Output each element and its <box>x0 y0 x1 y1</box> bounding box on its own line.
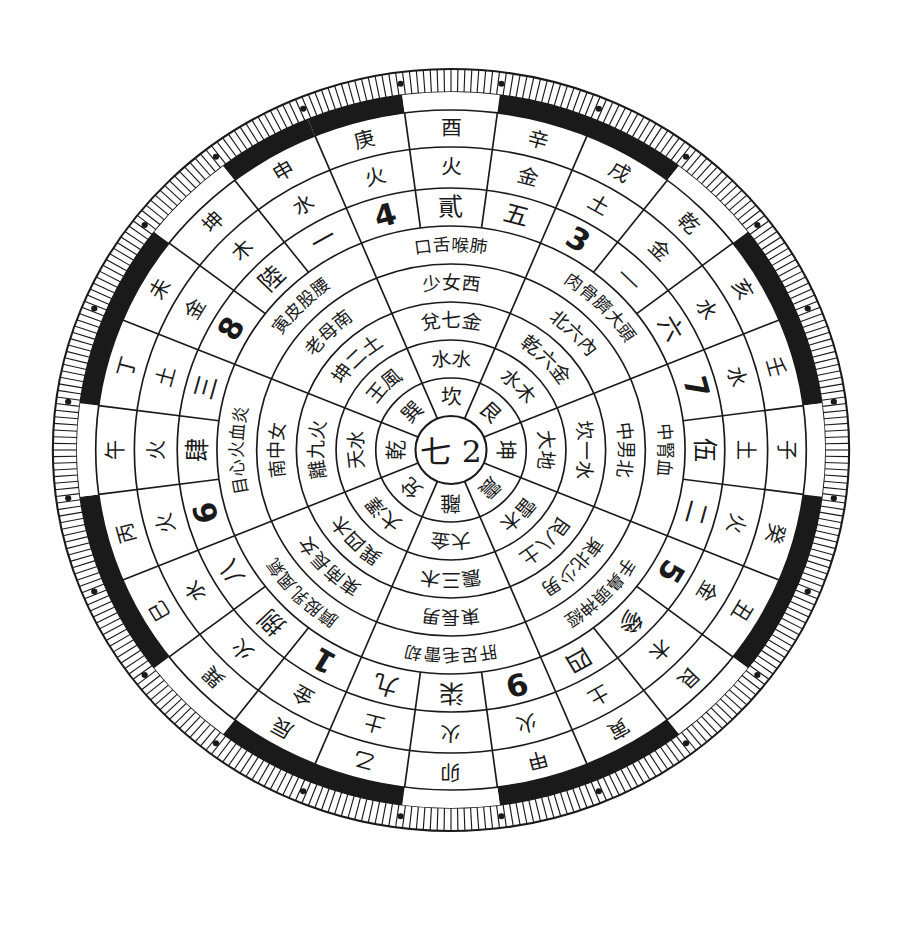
body-part-label: 火 <box>227 442 247 459</box>
star-number: 四 <box>559 642 596 679</box>
tick-dot <box>142 672 148 678</box>
family-label: 男 <box>421 605 442 627</box>
star-number: 7 <box>676 373 716 402</box>
trigram-number-label: 兌 <box>419 310 442 335</box>
tick-dot <box>596 106 602 112</box>
body-part-label: 目 <box>228 476 251 496</box>
element-pair-label: 天 <box>344 449 369 470</box>
tick-dot <box>65 399 71 405</box>
element-label: 土 <box>362 709 388 737</box>
element-label: 水 <box>288 190 318 220</box>
star-number: 9 <box>502 665 532 703</box>
compass-svg: 子壬亥乾戌辛酉庚申坤未丁午丙巳巽辰乙卯甲寅艮丑癸土水水金土金火火水木金土火火水火… <box>0 0 903 937</box>
body-part-label: 炎 <box>228 405 251 425</box>
mountain-label: 丁 <box>112 354 141 379</box>
trigram-label: 艮 <box>474 397 506 427</box>
family-label: 中 <box>613 421 636 441</box>
mountain-label: 申 <box>268 157 298 187</box>
element-label: 水 <box>691 294 722 323</box>
trigram-label: 坤 <box>494 440 519 460</box>
mountain-label: 乙 <box>351 747 377 775</box>
body-part-label: 血 <box>227 423 249 441</box>
element-label: 金 <box>691 577 722 606</box>
trigram-number-label: 震 <box>460 565 483 590</box>
family-label: 中 <box>266 441 287 459</box>
trigram-number-label: 金 <box>460 310 483 335</box>
mountain-label: 巳 <box>144 596 175 625</box>
element-label: 火 <box>362 163 388 191</box>
tick-dot <box>300 106 306 112</box>
element-label: 土 <box>734 440 759 460</box>
tick-dot <box>805 588 811 594</box>
star-number: 八 <box>212 554 250 589</box>
body-part-label: 喉 <box>451 235 469 255</box>
mountain-label: 丑 <box>726 596 757 625</box>
mountain-label: 壬 <box>761 354 790 379</box>
mountain-label: 坤 <box>198 207 230 237</box>
tick-dot <box>754 672 760 678</box>
star-number: 6 <box>186 498 226 527</box>
family-label: 南 <box>266 459 289 479</box>
element-label: 水 <box>722 364 751 389</box>
star-number: 4 <box>370 196 400 234</box>
trigram-number-label: 木 <box>419 565 442 590</box>
center-label: 七 2 <box>420 435 482 469</box>
element-label: 土 <box>584 190 614 220</box>
body-part-label: 腎 <box>655 442 675 459</box>
family-label: 少 <box>421 273 442 295</box>
trigram-number-label: 三 <box>441 568 460 590</box>
tick-dot <box>498 81 504 87</box>
element-label: 火 <box>226 635 258 665</box>
body-part-label: 毛 <box>442 645 459 665</box>
tick-dot <box>91 306 97 312</box>
element-pair-label: 大 <box>450 528 472 552</box>
element-label: 火 <box>441 721 461 744</box>
star-number: 五 <box>501 198 533 232</box>
element-label: 金 <box>644 235 676 265</box>
body-part-label: 雷 <box>423 644 442 665</box>
element-pair-label: 水 <box>344 430 369 451</box>
mountain-label: 丙 <box>112 521 141 546</box>
element-label: 木 <box>644 635 676 665</box>
star-number: 一 <box>306 221 343 258</box>
body-part-label: 刧 <box>404 641 425 663</box>
luopan-compass-diagram: 子壬亥乾戌辛酉庚申坤未丁午丙巳巽辰乙卯甲寅艮丑癸土水水金土金火火水木金土火火水火… <box>0 0 903 937</box>
mountain-label: 庚 <box>351 126 377 154</box>
mountain-label: 乾 <box>673 207 705 237</box>
tick-dot <box>498 813 504 819</box>
family-label: 長 <box>442 607 460 628</box>
trigram-number-label: 九 <box>304 441 328 460</box>
mountain-label: 亥 <box>726 275 757 304</box>
mountain-label: 辛 <box>525 126 551 154</box>
element-label: 火 <box>441 156 461 179</box>
tick-dot <box>300 788 306 794</box>
star-number: 二 <box>679 497 714 528</box>
element-pair-label: 大 <box>533 430 558 451</box>
family-label: 男 <box>615 441 636 459</box>
tick-dot <box>683 740 689 746</box>
star-number: 三 <box>188 372 223 403</box>
family-label: 女 <box>442 273 460 294</box>
trigram-number-label: 一 <box>574 441 598 460</box>
tick-dot <box>142 222 148 228</box>
tick-dot <box>754 222 760 228</box>
element-label: 火 <box>722 511 751 536</box>
element-pair-label: 地 <box>533 449 558 470</box>
trigram-number-label: 七 <box>441 310 460 332</box>
trigram-label: 坎 <box>441 385 461 408</box>
body-part-label: 肝 <box>478 641 499 663</box>
trigram-number-label: 離 <box>305 459 331 481</box>
mountain-label: 艮 <box>673 662 705 692</box>
tick-dot <box>213 154 219 160</box>
trigram-label: 乾 <box>383 440 408 460</box>
mountain-label: 酉 <box>441 117 461 140</box>
element-label: 土 <box>151 364 180 389</box>
mountain-label: 辰 <box>268 713 298 743</box>
mountain-label: 寅 <box>604 713 634 743</box>
element-label: 金 <box>180 294 211 323</box>
mountain-label: 未 <box>144 275 175 304</box>
element-pair-label: 水 <box>430 347 452 371</box>
trigram-number-label: 水 <box>571 459 597 481</box>
mountain-label: 子 <box>775 440 800 460</box>
element-label: 金 <box>288 680 318 710</box>
